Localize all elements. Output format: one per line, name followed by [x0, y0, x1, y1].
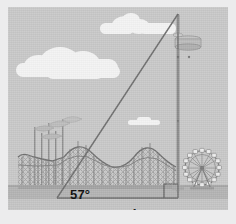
figure-canvas: 57° 50 yd [0, 0, 236, 224]
right-angle-marker [164, 184, 178, 198]
illustration-area: 57° 50 yd [8, 7, 228, 210]
angle-label: 57° [70, 187, 90, 202]
triangle-overlay [8, 7, 228, 210]
hypotenuse-line [57, 14, 178, 198]
base-distance-label: 50 yd [100, 207, 137, 210]
